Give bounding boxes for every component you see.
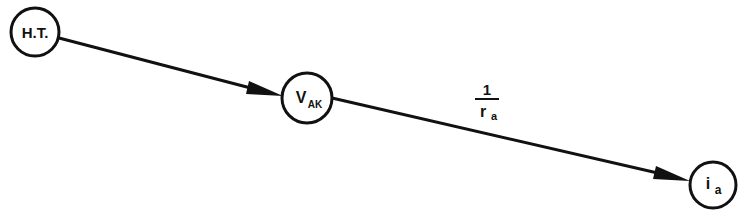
edge-ht-to-vak bbox=[59, 38, 283, 96]
node-ht-label: H.T. bbox=[22, 24, 49, 41]
gain-denominator-sub: a bbox=[491, 110, 498, 122]
node-vak: V AK bbox=[282, 73, 332, 123]
arrowhead-icon bbox=[653, 166, 690, 181]
node-ia: i a bbox=[690, 162, 736, 208]
node-ht: H.T. bbox=[11, 8, 59, 56]
edge-gain-label: 1 r a bbox=[475, 81, 499, 122]
node-ia-subscript: a bbox=[715, 183, 722, 197]
gain-denominator: r bbox=[480, 103, 486, 120]
edge-vak-to-ia bbox=[332, 98, 690, 181]
signal-flow-diagram: 1 r a H.T. V AK i a bbox=[0, 0, 745, 210]
gain-numerator: 1 bbox=[483, 81, 491, 98]
node-vak-subscript: AK bbox=[308, 99, 323, 110]
arrowhead-icon bbox=[246, 81, 283, 96]
node-ia-label: i bbox=[706, 175, 710, 192]
node-vak-label: V bbox=[296, 89, 307, 106]
